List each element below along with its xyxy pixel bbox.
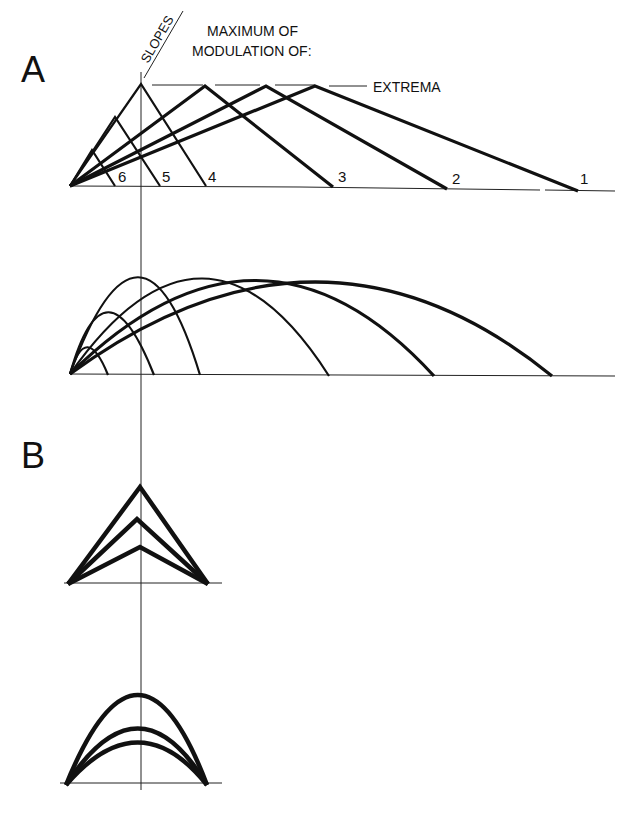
- slopes-label: SLOPES: [138, 13, 177, 66]
- triangle-label-2: 2: [452, 170, 460, 187]
- arc-2: [70, 280, 434, 376]
- extrema-line: [152, 85, 367, 86]
- triangle-2: [70, 86, 447, 189]
- triangle-1: [70, 86, 578, 191]
- triangle-baseline: [70, 186, 615, 191]
- panel-label-a: A: [21, 49, 45, 90]
- b-arc-1: [66, 695, 207, 785]
- panel-label-b: B: [21, 435, 45, 476]
- b-arc-waveforms: [66, 695, 207, 785]
- b-triangle-1: [68, 487, 208, 584]
- extrema-label: EXTREMA: [373, 79, 441, 95]
- b-arc-3: [66, 743, 207, 786]
- arc-3: [70, 278, 329, 376]
- triangle-label-1: 1: [580, 170, 588, 187]
- triangle-label-6: 6: [118, 168, 126, 185]
- triangle-label-4: 4: [208, 168, 216, 185]
- triangle-labels: 1 2 3 4 5 6: [118, 168, 588, 187]
- parabolic-waveforms: [70, 277, 552, 376]
- maximum-of-label: MAXIMUM OF: [207, 23, 298, 39]
- slopes-annotation: SLOPES: [138, 11, 183, 78]
- b-triangle-waveforms: [68, 487, 208, 584]
- triangle-label-5: 5: [162, 168, 170, 185]
- triangle-label-3: 3: [338, 168, 346, 185]
- diagram-canvas: A B SLOPES MAXIMUM OF MODULATION OF: EXT…: [0, 0, 638, 813]
- modulation-of-label-text: MODULATION OF:: [192, 43, 312, 59]
- arc-1: [70, 282, 552, 376]
- triangle-waveforms: [70, 84, 578, 191]
- arc-baseline: [70, 374, 615, 376]
